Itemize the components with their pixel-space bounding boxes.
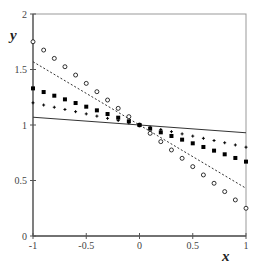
circle-marker (223, 190, 227, 194)
plus-marker (85, 112, 88, 115)
chart: 00.511.52-1-0.500.51 y x (0, 0, 260, 270)
circle-marker (116, 106, 120, 110)
plus-marker (74, 110, 77, 113)
square-marker (233, 156, 237, 160)
plus-marker (234, 143, 237, 146)
plus-marker (181, 132, 184, 135)
square-marker (201, 145, 205, 149)
circle-marker (127, 115, 131, 119)
circle-marker (233, 198, 237, 202)
plus-marker (32, 101, 35, 104)
square-marker (42, 90, 46, 94)
circle-marker (106, 98, 110, 102)
y-tick-label: 2 (22, 9, 27, 20)
data-markers (31, 40, 248, 211)
axis-ticks: 00.511.52-1-0.500.51 (15, 9, 249, 252)
square-marker (74, 101, 78, 105)
y-tick-label: 0 (22, 231, 27, 242)
square-marker (169, 134, 173, 138)
circle-marker (148, 131, 152, 135)
square-marker (63, 97, 67, 101)
y-axis-label: y (8, 27, 17, 43)
square-marker (106, 112, 110, 116)
circle-marker (191, 165, 195, 169)
plus-marker (63, 108, 66, 111)
square-marker (212, 149, 216, 153)
circle-marker (169, 148, 173, 152)
plus-marker (213, 139, 216, 142)
square-marker (52, 94, 56, 98)
circle-marker (159, 140, 163, 144)
circle-marker (180, 156, 184, 160)
square-marker (244, 160, 248, 164)
circle-marker (212, 181, 216, 185)
square-marker (31, 86, 35, 90)
plus-markers (32, 101, 248, 148)
square-marker (95, 108, 99, 112)
y-tick-label: 1.5 (15, 64, 28, 75)
circle-marker (244, 206, 248, 210)
circle-marker (31, 40, 35, 44)
x-tick-label: 0.5 (187, 240, 200, 251)
plus-marker (170, 130, 173, 133)
circle-marker (201, 173, 205, 177)
plus-marker (191, 135, 194, 138)
plus-marker (245, 146, 248, 149)
plus-marker (53, 106, 56, 109)
square-marker (223, 152, 227, 156)
plus-marker (42, 104, 45, 107)
circle-marker (74, 73, 78, 77)
x-tick-label: 1 (244, 240, 249, 251)
x-tick-label: -1 (29, 240, 37, 251)
x-tick-label: 0 (137, 240, 142, 251)
plus-marker (223, 141, 226, 144)
y-tick-label: 0.5 (15, 175, 28, 186)
circle-marker (42, 48, 46, 52)
square-marker (180, 138, 184, 142)
x-tick-label: -0.5 (78, 240, 94, 251)
x-axis-label: x (221, 248, 230, 264)
circle-marker (52, 56, 56, 60)
circle-marker (63, 65, 67, 69)
square-marker (84, 105, 88, 109)
y-tick-label: 1 (22, 120, 27, 131)
plus-marker (202, 137, 205, 140)
square-marker (191, 141, 195, 145)
plus-marker (106, 117, 109, 120)
circle-marker (84, 81, 88, 85)
circle-marker (95, 90, 99, 94)
plus-marker (95, 115, 98, 118)
